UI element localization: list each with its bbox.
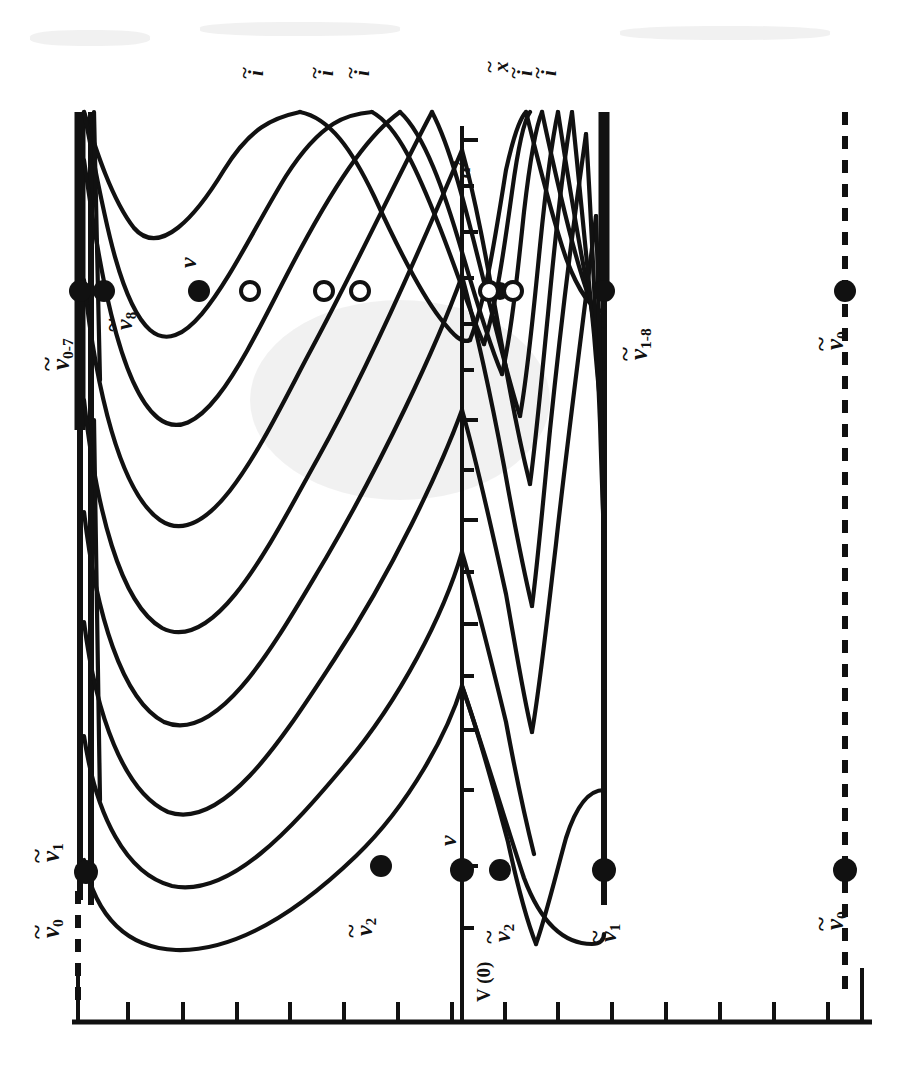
- scan-smudge: [620, 26, 830, 40]
- label-nu-tilde-1-right: ~v1: [596, 924, 623, 942]
- open-level-marker: [480, 282, 498, 300]
- nu-symbol: ~v: [822, 919, 847, 930]
- tilde-glyph: ~i: [539, 70, 560, 76]
- potential-curve-v0: [84, 686, 462, 950]
- nu-subscript: 1: [49, 843, 66, 851]
- label-nu-plain-lower: v: [436, 835, 460, 846]
- open-level-marker: [504, 282, 522, 300]
- top-margin-mark-2: ~i: [316, 70, 337, 76]
- nu-symbol: ~v: [38, 927, 63, 938]
- label-nu-2-center: ~v2: [490, 924, 517, 942]
- tilde-glyph: ~i: [246, 70, 267, 76]
- nu-subscript: 1-8: [637, 328, 654, 349]
- potential-curve-v1: [84, 552, 462, 887]
- nu-symbol: ~v: [112, 319, 136, 330]
- potential-curve-family: [84, 112, 604, 950]
- top-margin-mark-6: ~i: [539, 70, 560, 76]
- label-nu-tilde-2: ~v2: [352, 918, 379, 936]
- nu-subscript: 0: [49, 919, 66, 927]
- filled-level-marker: [592, 858, 616, 882]
- filled-level-marker: [370, 855, 392, 877]
- filled-level-marker: [188, 280, 210, 302]
- label-nu-tilde-1-left: ~v1: [38, 843, 66, 862]
- top-margin-mark-3: ~i: [352, 70, 373, 76]
- label-nu-tilde-0-7: ~v0-7: [48, 338, 76, 370]
- nu-symbol: ~v: [490, 931, 514, 942]
- filled-level-marker: [593, 280, 615, 302]
- nu-symbol: ~v: [626, 349, 651, 360]
- potential-curve-v8: [84, 112, 300, 238]
- left-tail-b: [94, 420, 100, 800]
- nu-symbol: ~v: [38, 851, 63, 862]
- nu-symbol: ~v: [596, 931, 620, 942]
- top-margin-mark-1: ~i: [246, 70, 267, 76]
- label-nu-tilde-8: ~v8: [112, 312, 139, 330]
- tilde-glyph: ~i: [352, 70, 373, 76]
- potential-curve-v7: [84, 112, 372, 337]
- filled-level-marker: [74, 860, 98, 884]
- label-nu-tilde-0-left: ~v0: [38, 919, 66, 938]
- nu-subscript: 0: [833, 911, 850, 919]
- filled-level-marker: [450, 858, 474, 882]
- filled-level-marker: [833, 858, 857, 882]
- label-nu-tilde-1-8: ~v1-8: [626, 328, 654, 360]
- scan-smudge: [200, 22, 400, 36]
- nu-subscript: 0-7: [59, 338, 76, 359]
- baseline-axis: [72, 968, 872, 1022]
- nu-subscript: 0: [833, 331, 850, 339]
- filled-level-marker: [489, 859, 511, 881]
- nu-symbol: v: [435, 835, 461, 846]
- label-coordinate-axis: a2: [452, 160, 474, 178]
- nu-symbol: ~v: [352, 925, 376, 936]
- nu-symbol: ~v: [48, 359, 73, 370]
- label-nu-plain-upper: v: [176, 257, 200, 268]
- axis-exponent: 2: [451, 160, 466, 167]
- scan-smudge: [250, 300, 550, 500]
- axis-symbol: a: [450, 167, 475, 178]
- nu-symbol: ~v: [822, 339, 847, 350]
- label-nu-tilde-0-right-lower: ~v0: [822, 911, 850, 930]
- filled-level-marker: [93, 280, 115, 302]
- nu-symbol: v: [175, 257, 201, 268]
- scan-smudge: [30, 30, 150, 46]
- label-value-axis: V (0): [474, 962, 493, 1002]
- left-solid-wall: [80, 112, 91, 905]
- filled-level-marker: [834, 280, 856, 302]
- label-nu-tilde-0-right-upper: ~v0: [822, 331, 850, 350]
- filled-level-marker: [69, 280, 91, 302]
- open-level-marker: [351, 282, 369, 300]
- open-level-marker: [315, 282, 333, 300]
- open-level-marker: [241, 282, 259, 300]
- value-axis-text: V (0): [473, 962, 494, 1002]
- tilde-glyph: ~i: [316, 70, 337, 76]
- rotated-potential-energy-figure: ~i ~i ~i ~x ~i ~i ~v0-7 ~v8 v ~v1-8 ~v0 …: [0, 0, 905, 1085]
